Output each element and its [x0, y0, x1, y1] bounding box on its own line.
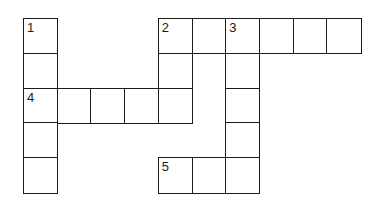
- crossword-cell[interactable]: [23, 122, 58, 158]
- clue-number: 1: [27, 20, 34, 35]
- crossword-cell[interactable]: 3: [225, 18, 260, 54]
- crossword-cell[interactable]: [158, 53, 193, 89]
- crossword-cell[interactable]: [57, 88, 92, 124]
- crossword-cell[interactable]: [225, 122, 260, 158]
- clue-number: 2: [162, 20, 169, 35]
- crossword-cell[interactable]: [225, 53, 260, 89]
- crossword-grid: 14235: [0, 0, 380, 203]
- crossword-cell[interactable]: [158, 88, 193, 124]
- crossword-cell[interactable]: 4: [23, 88, 58, 124]
- crossword-cell[interactable]: [124, 88, 159, 124]
- crossword-cell[interactable]: [326, 18, 361, 54]
- crossword-cell[interactable]: [90, 88, 125, 124]
- clue-number: 5: [162, 159, 169, 174]
- crossword-cell[interactable]: [225, 88, 260, 124]
- crossword-cell[interactable]: 1: [23, 18, 58, 54]
- clue-number: 4: [27, 90, 34, 105]
- crossword-cell[interactable]: [293, 18, 328, 54]
- clue-number: 3: [229, 20, 236, 35]
- crossword-cell[interactable]: [225, 157, 260, 193]
- crossword-cell[interactable]: [23, 53, 58, 89]
- crossword-cell[interactable]: [23, 157, 58, 193]
- crossword-cell[interactable]: [259, 18, 294, 54]
- crossword-cell[interactable]: [192, 18, 227, 54]
- crossword-cell[interactable]: 5: [158, 157, 193, 193]
- crossword-cell[interactable]: [192, 157, 227, 193]
- crossword-cell[interactable]: 2: [158, 18, 193, 54]
